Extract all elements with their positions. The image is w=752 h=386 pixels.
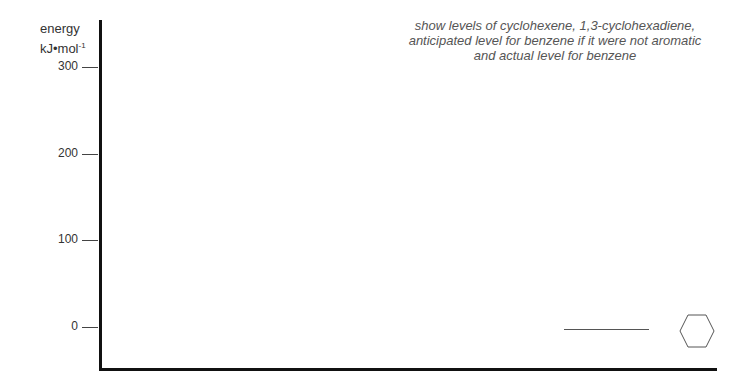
annotation-line-3: and actual level for benzene — [360, 48, 750, 63]
annotation-line-1: show levels of cyclohexene, 1,3-cyclohex… — [360, 18, 750, 33]
x-axis — [99, 368, 717, 371]
annotation-line-2: anticipated level for benzene if it were… — [360, 33, 750, 48]
y-tick-label-300: 300 — [38, 59, 78, 73]
y-tick-200 — [82, 154, 98, 155]
y-axis-label-quantity: energy — [40, 20, 86, 37]
y-axis-label-units: kJ•mol-1 — [40, 37, 86, 57]
y-axis — [99, 20, 102, 370]
benzene-hexagon-icon — [678, 314, 716, 348]
y-tick-label-100: 100 — [38, 232, 78, 246]
y-tick-label-200: 200 — [38, 146, 78, 160]
y-tick-label-0: 0 — [38, 319, 78, 333]
benzene-energy-level — [564, 329, 649, 330]
instruction-annotation: show levels of cyclohexene, 1,3-cyclohex… — [360, 18, 750, 63]
y-axis-label: energy kJ•mol-1 — [40, 20, 86, 57]
y-tick-100 — [82, 240, 98, 241]
y-tick-0 — [82, 327, 98, 328]
y-tick-300 — [82, 67, 98, 68]
